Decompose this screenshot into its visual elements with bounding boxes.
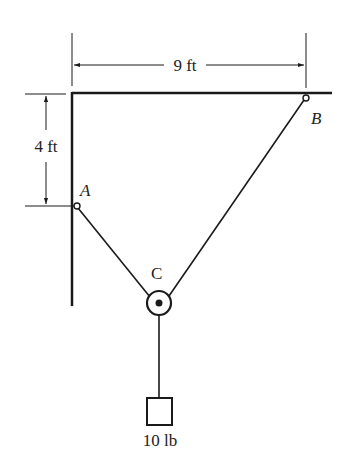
dimension-horizontal-label: 9 ft: [173, 56, 196, 75]
weight-block-icon: [147, 398, 172, 425]
dimension-vertical-label: 4 ft: [34, 137, 57, 156]
pulley-icon: [147, 291, 171, 315]
pin-a-icon: [74, 203, 80, 209]
load-label: 10 lb: [143, 431, 177, 450]
dimension-vertical: 4 ft: [25, 94, 74, 206]
pulley-diagram: 9 ft 4 ft A B C 10 lb: [0, 0, 355, 474]
dimension-horizontal: 9 ft: [72, 33, 306, 88]
point-c-label: C: [151, 264, 162, 283]
point-b-label: B: [311, 109, 322, 128]
point-a-label: A: [79, 181, 91, 200]
pin-b-icon: [303, 95, 309, 101]
cables: [78, 100, 304, 398]
support-structure: [72, 92, 332, 306]
